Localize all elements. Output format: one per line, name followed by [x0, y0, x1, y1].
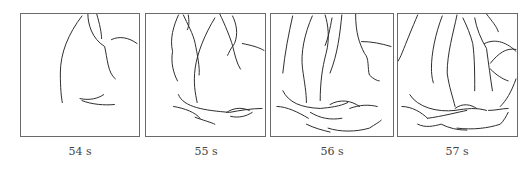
sketch-56s	[271, 14, 393, 136]
panel-55s	[145, 13, 266, 137]
panel-56s	[270, 13, 394, 137]
sketch-55s	[146, 14, 265, 136]
panel-54s	[20, 13, 140, 137]
panel-label-56s: 56 s	[272, 145, 392, 158]
panel-label-55s: 55 s	[146, 145, 266, 158]
panel-label-57s: 57 s	[397, 145, 517, 158]
sketch-57s	[398, 14, 517, 136]
panel-57s	[397, 13, 518, 137]
panel-label-54s: 54 s	[20, 145, 140, 158]
sketch-54s	[21, 14, 139, 136]
